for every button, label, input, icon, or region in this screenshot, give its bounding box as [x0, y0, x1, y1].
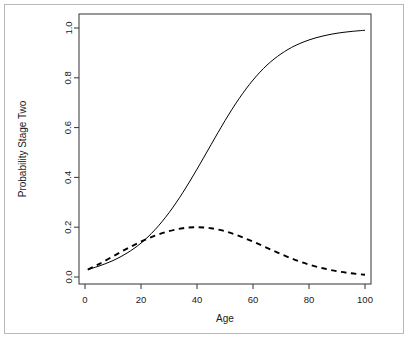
series-line-1 [88, 227, 365, 275]
y-tick-label: 0.2 [63, 221, 74, 234]
y-axis-title: Probability Stage Two [17, 100, 28, 197]
y-tick-label: 0.4 [63, 171, 74, 184]
y-axis-tick-labels: 0.00.20.40.60.81.0 [63, 21, 74, 283]
y-tick-label: 0.0 [63, 270, 74, 283]
x-axis-ticks [85, 284, 365, 289]
x-axis-tick-labels: 020406080100 [82, 294, 373, 305]
series-line-0 [88, 30, 365, 269]
y-axis-ticks [74, 28, 79, 277]
x-tick-label: 40 [192, 294, 203, 305]
chart-page: 0.00.20.40.60.81.0 020406080100 Age Prob… [0, 0, 410, 340]
x-axis-title: Age [216, 313, 234, 324]
y-tick-label: 0.6 [63, 121, 74, 134]
y-tick-label: 0.8 [63, 71, 74, 84]
x-tick-label: 80 [304, 294, 315, 305]
x-tick-label: 20 [136, 294, 147, 305]
y-tick-label: 1.0 [63, 21, 74, 34]
plot-frame [79, 14, 371, 284]
x-tick-label: 60 [248, 294, 259, 305]
data-series-group [88, 30, 365, 275]
x-tick-label: 100 [357, 294, 373, 305]
x-tick-label: 0 [82, 294, 87, 305]
plot-canvas: 0.00.20.40.60.81.0 020406080100 Age Prob… [0, 0, 410, 340]
